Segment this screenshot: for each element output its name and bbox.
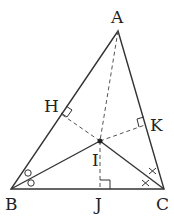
- segment-ik: [100, 125, 145, 141]
- angle-mark-b-circle-1-icon: [25, 170, 31, 176]
- segment-bi: [11, 141, 100, 189]
- right-angle-j-icon: [100, 180, 110, 189]
- angle-mark-c-cross-2-icon: [142, 180, 149, 186]
- segment-ih: [61, 114, 100, 141]
- segment-ai: [100, 31, 118, 141]
- triangle-abc: [11, 31, 164, 189]
- angle-mark-c-cross-1-icon: [149, 168, 156, 174]
- incenter-point-icon: [98, 139, 103, 144]
- label-h: H: [44, 98, 59, 115]
- label-c: C: [156, 196, 169, 213]
- label-a: A: [111, 9, 123, 26]
- angle-mark-b-circle-2-icon: [28, 180, 34, 186]
- label-j: J: [95, 196, 102, 213]
- incenter-diagram: A H K I B J C: [0, 0, 174, 218]
- triangle-figure: [0, 0, 174, 218]
- label-i: I: [92, 152, 99, 169]
- label-b: B: [5, 196, 18, 213]
- label-k: K: [150, 117, 163, 134]
